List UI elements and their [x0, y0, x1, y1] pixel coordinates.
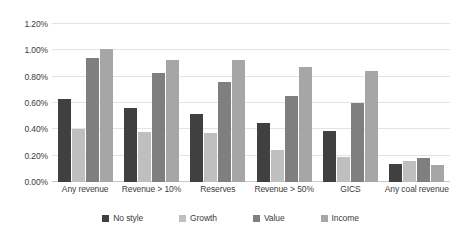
bar[interactable]: [138, 132, 151, 182]
legend-item[interactable]: Value: [253, 213, 285, 223]
x-tick-label: GICS: [317, 184, 383, 202]
plot-area: [52, 24, 450, 182]
bar[interactable]: [431, 165, 444, 182]
bar[interactable]: [152, 73, 165, 182]
x-tick-label: Revenue > 50%: [251, 184, 317, 202]
legend-label: Income: [332, 213, 359, 223]
bar[interactable]: [204, 133, 217, 182]
legend-swatch-icon: [253, 215, 260, 222]
bar-group: [52, 24, 118, 182]
y-tick-label: 0.40%: [24, 124, 48, 134]
plot-wrapper: 1.20%1.00%0.80%0.60%0.40%0.20%0.00%: [0, 0, 461, 192]
y-tick-label: 0.00%: [24, 177, 48, 187]
bar[interactable]: [389, 164, 402, 182]
legend-item[interactable]: No style: [102, 213, 143, 223]
bar[interactable]: [166, 60, 179, 182]
bar[interactable]: [232, 60, 245, 182]
x-axis: Any revenueRevenue > 10%ReservesRevenue …: [52, 184, 450, 202]
y-tick-label: 1.00%: [24, 45, 48, 55]
x-tick-label: Reserves: [185, 184, 251, 202]
y-tick-label: 0.80%: [24, 72, 48, 82]
y-tick-label: 0.60%: [24, 98, 48, 108]
legend-label: No style: [113, 213, 143, 223]
bar[interactable]: [323, 131, 336, 182]
bar[interactable]: [403, 161, 416, 182]
legend-swatch-icon: [179, 215, 186, 222]
bar[interactable]: [72, 129, 85, 182]
bar-group: [384, 24, 450, 182]
chart-legend: No styleGrowthValueIncome: [0, 210, 461, 226]
bar-group: [251, 24, 317, 182]
bar-groups: [52, 24, 450, 182]
x-tick-label: Any coal revenue: [384, 184, 450, 202]
bar[interactable]: [299, 67, 312, 182]
legend-swatch-icon: [321, 215, 328, 222]
figure-caption: [8, 231, 208, 242]
bar[interactable]: [285, 96, 298, 182]
bar[interactable]: [58, 99, 71, 182]
bar[interactable]: [124, 108, 137, 182]
legend-label: Growth: [190, 213, 217, 223]
x-tick-label: Revenue > 10%: [118, 184, 184, 202]
legend-item[interactable]: Growth: [179, 213, 217, 223]
bar[interactable]: [86, 58, 99, 182]
legend-swatch-icon: [102, 215, 109, 222]
bar-group: [118, 24, 184, 182]
bar[interactable]: [271, 150, 284, 182]
y-axis: 1.20%1.00%0.80%0.60%0.40%0.20%0.00%: [8, 0, 48, 192]
legend-label: Value: [264, 213, 285, 223]
bar[interactable]: [365, 71, 378, 182]
bar-group: [185, 24, 251, 182]
bar-group: [317, 24, 383, 182]
legend-item[interactable]: Income: [321, 213, 359, 223]
y-tick-label: 0.20%: [24, 151, 48, 161]
y-tick-label: 1.20%: [24, 19, 48, 29]
bar-chart: 1.20%1.00%0.80%0.60%0.40%0.20%0.00% Any …: [0, 0, 461, 242]
bar[interactable]: [351, 103, 364, 182]
bar[interactable]: [218, 82, 231, 182]
bar[interactable]: [100, 49, 113, 182]
bar[interactable]: [417, 158, 430, 182]
bar[interactable]: [337, 157, 350, 182]
bar[interactable]: [190, 114, 203, 182]
bar[interactable]: [257, 123, 270, 182]
x-tick-label: Any revenue: [52, 184, 118, 202]
